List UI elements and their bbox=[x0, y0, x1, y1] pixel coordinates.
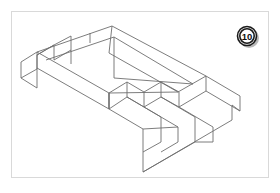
right-arm-inner-step-end bbox=[143, 117, 161, 152]
badge-label: 10 bbox=[242, 31, 253, 42]
right-arm-far-corner-edge bbox=[232, 105, 240, 111]
step-run-edge-3 bbox=[179, 107, 213, 127]
problem-number-badge: 10 bbox=[238, 27, 260, 49]
right-arm-middle-step-end bbox=[161, 127, 178, 152]
part-silhouette-fill bbox=[21, 26, 210, 111]
step-run-edge-1 bbox=[206, 76, 240, 96]
isometric-part-drawing: 10 bbox=[0, 0, 280, 193]
left-notch-lower-tread-edge bbox=[37, 45, 54, 55]
drawing-sheet: 10 bbox=[0, 0, 280, 193]
step-run-edge-2 bbox=[206, 91, 240, 111]
right-arm-lower-outline bbox=[143, 105, 232, 172]
step-run-edge-7 bbox=[109, 109, 143, 129]
left-notch-upper-tread-edge bbox=[54, 36, 71, 45]
right-arm-bottom-outline-lower bbox=[143, 142, 195, 172]
right-arm-bottom-front-edge bbox=[143, 127, 178, 129]
